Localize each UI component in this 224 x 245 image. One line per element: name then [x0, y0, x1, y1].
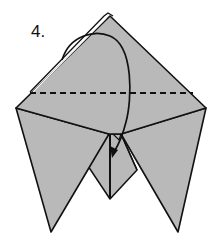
upper-kite-face: [16, 16, 206, 134]
origami-diagram: [0, 0, 224, 245]
